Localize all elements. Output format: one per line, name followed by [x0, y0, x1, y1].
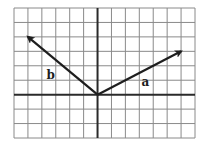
grid	[14, 8, 195, 138]
vector-a-label: a	[141, 75, 149, 89]
vector-b-label: b	[47, 68, 55, 82]
vector-grid-diagram: ab	[0, 0, 202, 146]
axes	[14, 8, 195, 138]
